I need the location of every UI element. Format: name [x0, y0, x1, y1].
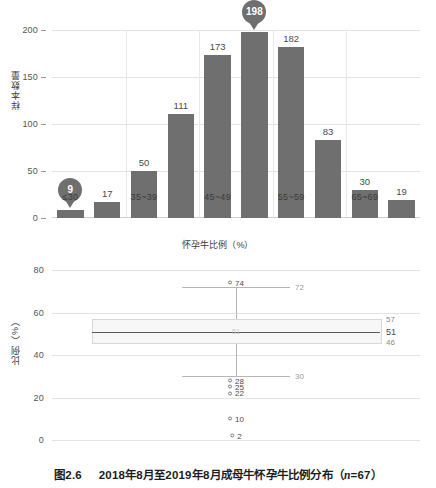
lower-whisker-stem: [236, 342, 237, 376]
bar-value-label: 17: [102, 188, 113, 199]
caption-n-value: =67）: [351, 469, 382, 481]
bar-value-label: 19: [396, 186, 407, 197]
bar-chart-x-axis-title: 怀孕牛比例（%）: [182, 238, 253, 251]
q3-value-label: 57: [386, 314, 395, 323]
outlier-label: 10: [235, 414, 244, 423]
bar[interactable]: 9: [57, 210, 83, 218]
bar-slot: 182: [273, 30, 310, 218]
bar-chart-x-tick: 55~59: [278, 192, 305, 202]
outlier-label: 74: [235, 278, 244, 287]
bar-chart-bars: 91750111173198182833019: [52, 30, 420, 218]
bar-slot: 9: [52, 30, 89, 218]
bar-value-label: 83: [323, 126, 334, 137]
lower-whisker-value-label: 30: [295, 372, 304, 381]
bar-value-pin-marker: 198: [242, 0, 266, 24]
gridline: [52, 270, 420, 271]
bar-chart-y-axis-title: 样本数量: [8, 70, 21, 110]
bar-slot: 111: [162, 30, 199, 218]
bar-value-label: 50: [139, 157, 150, 168]
bar-value-label: 111: [174, 100, 188, 111]
outlier-dot: [228, 391, 232, 395]
upper-whisker-value-label: 72: [295, 283, 304, 292]
bar-value-label: 30: [359, 176, 370, 187]
bar[interactable]: 17: [94, 202, 120, 218]
box-plot-y-axis-title: 比例（%）: [8, 316, 21, 365]
bar-slot: 83: [310, 30, 347, 218]
bar-slot: 17: [89, 30, 126, 218]
box-plot-y-tick: 20: [34, 393, 44, 403]
box-plot-plot-area: 020406080 51575146723074282522102: [52, 270, 420, 440]
outlier-dot: [228, 417, 232, 421]
bar[interactable]: 198: [241, 32, 267, 218]
bar-chart-x-tick: 45~49: [204, 192, 231, 202]
figure-caption: 图2.6 2018年8月至2019年8月成母牛怀孕牛比例分布（n=67）: [0, 466, 436, 482]
caption-text: 2018年8月至2019年8月成母牛怀孕牛比例分布（: [99, 469, 344, 481]
bar-chart-y-tick: 200: [22, 25, 46, 35]
median-inbox-label: 51: [232, 327, 240, 334]
bar-value-label: 173: [210, 41, 226, 52]
bar-chart-y-tick: 100: [22, 119, 46, 129]
box-plot-outlier[interactable]: 2: [230, 431, 241, 440]
bar-chart-y-tick: 150: [22, 72, 46, 82]
bar-slot: 173: [199, 30, 236, 218]
box-plot-y-tick: 60: [34, 308, 44, 318]
caption-number: 图2.6: [54, 469, 82, 481]
outlier-label: 22: [235, 389, 244, 398]
box-plot-y-tick: 80: [34, 265, 44, 275]
bar[interactable]: 111: [168, 114, 194, 218]
median-value-label: 51: [386, 327, 396, 337]
box-plot-outlier[interactable]: 74: [228, 278, 244, 287]
bar-chart-x-tick: 35~39: [131, 192, 158, 202]
outlier-dot: [230, 434, 234, 438]
box-plot-y-tick: 40: [34, 350, 44, 360]
q1-value-label: 46: [386, 338, 395, 347]
outlier-label: 2: [237, 431, 241, 440]
box-plot-panel: 比例（%） 020406080 51575146723074282522102: [0, 258, 436, 458]
bar-chart-x-tick: 65~69: [351, 192, 378, 202]
bar-slot: 30: [346, 30, 383, 218]
figure-container: 样本数量 怀孕牛比例（%） 050100150200 9175011117319…: [0, 0, 436, 488]
bar-chart-y-tick: 50: [28, 166, 46, 176]
bar-chart-y-tick: 0: [33, 213, 46, 223]
bar-chart-panel: 样本数量 怀孕牛比例（%） 050100150200 9175011117319…: [0, 0, 436, 256]
box-plot-outlier[interactable]: 22: [228, 389, 244, 398]
bar-chart-x-tick: ≤30: [62, 192, 78, 202]
upper-whisker-stem: [236, 287, 237, 319]
bar-chart-plot-area: 050100150200 91750111173198182833019: [52, 30, 420, 218]
bar-value-label: 182: [283, 33, 299, 44]
bar-slot: 50: [126, 30, 163, 218]
bar[interactable]: 19: [388, 200, 414, 218]
bar-slot: 198: [236, 30, 273, 218]
box-plot-y-tick: 0: [39, 435, 44, 445]
box-plot-outlier[interactable]: 10: [228, 414, 244, 423]
bar-slot: 19: [383, 30, 420, 218]
bar[interactable]: 83: [315, 140, 341, 218]
outlier-dot: [228, 281, 232, 285]
caption-n-symbol: n: [344, 469, 351, 481]
